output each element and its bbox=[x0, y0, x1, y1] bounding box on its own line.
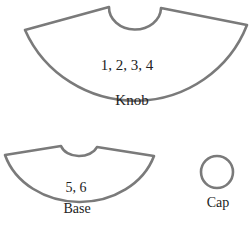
knob-shape bbox=[25, 7, 247, 101]
cap-label: Cap bbox=[207, 195, 230, 210]
base-numbers: 5, 6 bbox=[66, 180, 87, 195]
knob-label: Knob bbox=[115, 92, 148, 108]
pattern-diagram: 1, 2, 3, 4 Knob 5, 6 Base Cap bbox=[0, 0, 249, 236]
base-label: Base bbox=[63, 201, 90, 216]
cap-shape bbox=[201, 156, 233, 188]
knob-piece: 1, 2, 3, 4 Knob bbox=[25, 7, 247, 108]
base-piece: 5, 6 Base bbox=[5, 146, 154, 216]
cap-piece: Cap bbox=[201, 156, 233, 210]
knob-numbers: 1, 2, 3, 4 bbox=[101, 57, 154, 73]
